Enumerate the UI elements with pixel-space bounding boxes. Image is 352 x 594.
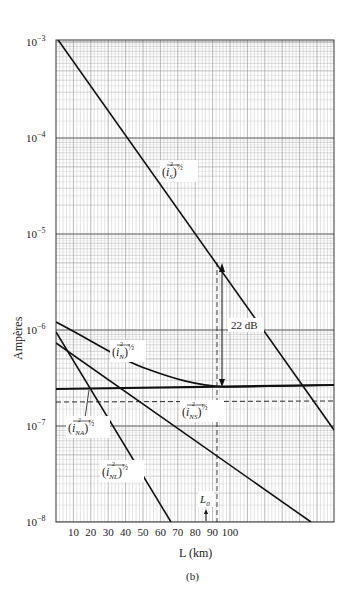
svg-text:2: 2: [78, 417, 81, 423]
label-is: (iS)½ 2: [160, 160, 198, 182]
y-tick-label: 10−5: [26, 226, 46, 240]
label-ins: (iNS)½ 2: [180, 400, 224, 422]
label-inl: (iNL)½ 2: [100, 460, 144, 482]
svg-text:2: 2: [192, 401, 195, 407]
chart: 10−310−410−510−610−710−8 102030405060708…: [0, 0, 352, 594]
grid: [56, 40, 334, 522]
x-tick-label: 100: [222, 526, 239, 538]
label-in: (iN)½ 2: [110, 340, 146, 362]
x-tick-label: 10: [68, 526, 80, 538]
x-tick-label: 60: [155, 526, 167, 538]
label-ina: (iNA)½ 2: [66, 416, 110, 438]
y-axis-ticks: 10−310−410−510−610−710−8: [26, 34, 46, 528]
caption: (b): [186, 570, 199, 583]
x-tick-label: 40: [120, 526, 132, 538]
y-tick-label: 10−7: [26, 418, 46, 432]
svg-text:2: 2: [112, 461, 115, 467]
db-label: 22 dB: [231, 319, 258, 331]
x-tick-label: 50: [138, 526, 150, 538]
y-tick-label: 10−6: [26, 322, 46, 336]
y-tick-label: 10−4: [26, 130, 46, 144]
y-axis-title: Ampères: [11, 316, 25, 360]
x-tick-label: 20: [85, 526, 97, 538]
ina-leader: [85, 390, 89, 418]
svg-text:2: 2: [170, 161, 173, 167]
y-tick-label: 10−8: [26, 514, 46, 528]
x-axis-title-text: L (km): [179, 546, 212, 560]
x-tick-label: 70: [172, 526, 184, 538]
x-tick-label: 90: [207, 526, 219, 538]
x-tick-label: 30: [103, 526, 115, 538]
svg-text:2: 2: [120, 341, 123, 347]
l0-arrow: [204, 509, 208, 521]
x-axis-ticks: 102030405060708090100: [68, 526, 239, 538]
y-tick-label: 10−3: [26, 34, 46, 48]
x-tick-label: 80: [190, 526, 202, 538]
